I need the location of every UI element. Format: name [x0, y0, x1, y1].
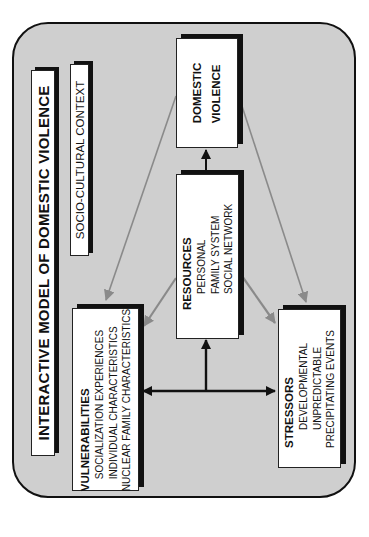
resources-item: SOCIAL NETWORK: [221, 203, 235, 309]
resources-item: PERSONAL: [194, 203, 208, 309]
resources-heading: RESOURCES: [180, 203, 192, 309]
context-label-box: SOCIO-CULTURAL CONTEXT: [70, 64, 89, 256]
vulnerabilities-heading: VULNERABILITIES: [78, 308, 90, 490]
dv-line2: VIOLENCE: [207, 63, 226, 124]
resources-content: RESOURCES PERSONAL FAMILY SYSTEM SOCIAL …: [180, 203, 235, 309]
dv-line1: DOMESTIC: [188, 63, 207, 124]
arrow-dv-to-stressors: [240, 100, 306, 302]
stressors-item: UNPREDICTABLE: [310, 330, 324, 448]
domestic-violence-box: DOMESTIC VIOLENCE: [176, 38, 238, 148]
domestic-violence-label: DOMESTIC VIOLENCE: [188, 63, 226, 124]
vulnerabilities-box: VULNERABILITIES SOCIALIZATION EXPERIENCE…: [72, 308, 139, 491]
vulnerabilities-item: NUCLEAR FAMILY CHARACTERISTICS: [119, 308, 133, 490]
stressors-heading: STRESSORS: [282, 330, 294, 448]
stressors-content: STRESSORS DEVELOPMENTAL UNPREDICTABLE PR…: [282, 330, 337, 448]
vulnerabilities-item: SOCIALIZATION EXPERIENCES: [92, 308, 106, 490]
stressors-item: PRECIPITATING EVENTS: [323, 330, 337, 448]
vulnerabilities-item: INDIVIDUAL CHARACTERISTICS: [106, 308, 120, 490]
vulnerabilities-content: VULNERABILITIES SOCIALIZATION EXPERIENCE…: [78, 308, 133, 490]
stressors-box: STRESSORS DEVELOPMENTAL UNPREDICTABLE PR…: [278, 309, 341, 468]
arrow-dv-to-vulnerabilities: [106, 96, 176, 300]
resources-item: FAMILY SYSTEM: [208, 203, 222, 309]
context-label: SOCIO-CULTURAL CONTEXT: [74, 81, 86, 239]
arrow-resources-to-stressors: [242, 276, 275, 323]
resources-box: RESOURCES PERSONAL FAMILY SYSTEM SOCIAL …: [176, 174, 239, 339]
page-title: INTERACTIVE MODEL OF DOMESTIC VIOLENCE: [35, 86, 52, 441]
stressors-item: DEVELOPMENTAL: [296, 330, 310, 448]
arrow-resources-to-vulnerabilities: [144, 278, 176, 326]
title-box: INTERACTIVE MODEL OF DOMESTIC VIOLENCE: [31, 70, 55, 456]
